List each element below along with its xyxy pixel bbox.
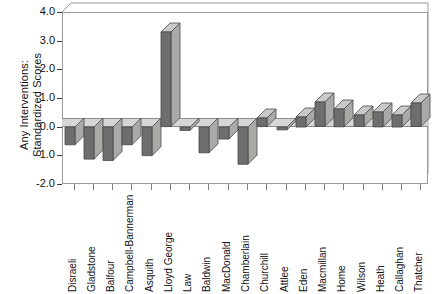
bar-3d-shape (199, 118, 220, 155)
bar-3d-shape (277, 118, 298, 132)
bar-3d-shape (334, 100, 355, 129)
bar-3d-shape (354, 106, 375, 128)
bar (180, 118, 190, 121)
x-axis-tick-mark (208, 184, 209, 190)
x-axis-category-label: Callaghan (395, 247, 405, 292)
bar (392, 106, 402, 118)
bar-3d-shape (257, 109, 278, 129)
x-axis-tick-mark (189, 184, 190, 190)
y-axis-tick-mark (57, 127, 62, 128)
y-axis-tick-mark (57, 98, 62, 99)
x-axis-category-labels: DisraeliGladstoneBalfourCampbell-Bannerm… (62, 190, 441, 294)
bar-3d-shape (142, 118, 163, 158)
x-axis-category-label: Macmillan (318, 247, 328, 292)
bar (103, 118, 113, 152)
x-axis-tick-mark (286, 184, 287, 190)
y-axis-tick-label: -1.0 (22, 148, 55, 160)
x-axis-tick-mark (324, 184, 325, 190)
bar-3d-shape (392, 106, 413, 129)
bar-chart: Any Interventions: Standardized Scores -… (0, 0, 441, 294)
x-axis-tick-mark (151, 184, 152, 190)
x-axis-tick-mark (112, 184, 113, 190)
y-axis-tick-mark (57, 184, 62, 185)
x-axis-category-label: Lloyd George (164, 232, 174, 292)
bar (84, 118, 94, 150)
bar (296, 108, 306, 118)
y-axis-tick-mark (57, 155, 62, 156)
bar (238, 118, 248, 155)
bar (219, 118, 229, 130)
x-axis-tick-mark (247, 184, 248, 190)
bar-3d-shape (161, 23, 182, 129)
x-axis-category-label: Chamberlain (241, 235, 251, 292)
bar-3d-shape (122, 118, 143, 147)
y-axis-tick-label: 4.0 (22, 5, 55, 17)
bar (334, 100, 344, 118)
x-axis-category-label: Baldwin (202, 257, 212, 292)
bar (411, 94, 421, 118)
x-axis-category-label: MacDonald (222, 241, 232, 292)
x-axis-tick-mark (420, 184, 421, 190)
x-axis-category-label: Eden (299, 269, 309, 292)
y-axis-tick-label: 2.0 (22, 62, 55, 74)
x-axis-tick-mark (228, 184, 229, 190)
bar (257, 109, 267, 118)
x-axis-tick-mark (305, 184, 306, 190)
bar (373, 103, 383, 118)
x-axis-tick-mark (170, 184, 171, 190)
bar-3d-shape (315, 93, 336, 128)
x-axis-category-label: Law (183, 274, 193, 292)
bar (122, 118, 132, 136)
bar (315, 93, 325, 117)
bar (277, 118, 287, 121)
x-axis-tick-mark (74, 184, 75, 190)
x-axis-category-label: Thatcher (414, 253, 424, 292)
bar-3d-shape (373, 103, 394, 129)
y-axis-tick-mark (57, 12, 62, 13)
x-axis-tick-mark (382, 184, 383, 190)
x-axis-category-label: Asquith (145, 259, 155, 292)
y-axis-tick-mark (57, 69, 62, 70)
x-axis-tick-mark (266, 184, 267, 190)
bar-3d-shape (180, 118, 201, 132)
bar-3d-shape (84, 118, 105, 161)
x-axis-category-label: Campbell-Bannerman (125, 195, 135, 292)
x-axis-category-label: Balfour (106, 260, 116, 292)
x-axis-tick-mark (401, 184, 402, 190)
bar (354, 106, 364, 117)
bar-3d-shape (219, 118, 240, 141)
x-axis-tick-mark (131, 184, 132, 190)
x-axis-category-label: Attlee (280, 266, 290, 292)
y-axis-tick-mark (57, 41, 62, 42)
bar (199, 118, 209, 144)
x-axis-category-label: Wilson (357, 262, 367, 292)
y-axis-tick-label: 0.0 (22, 120, 55, 132)
bar (65, 118, 75, 136)
bar-3d-shape (296, 108, 317, 129)
bar-3d-shape (411, 94, 432, 129)
bar (142, 118, 152, 147)
x-axis-tick-mark (93, 184, 94, 190)
x-axis-category-label: Disraeli (68, 259, 78, 292)
x-axis-category-label: Churchill (260, 253, 270, 292)
bar (161, 23, 171, 118)
y-axis-tick-label: 3.0 (22, 34, 55, 46)
y-axis-tick-label: 1.0 (22, 91, 55, 103)
bar-3d-shape (65, 118, 86, 147)
x-axis-tick-mark (363, 184, 364, 190)
x-axis-category-label: Heath (376, 265, 386, 292)
bar-3d-shape (103, 118, 124, 163)
x-axis-category-label: Home (337, 265, 347, 292)
plot-area: -2.0-1.00.01.02.03.04.0 (62, 12, 428, 184)
x-axis-tick-mark (343, 184, 344, 190)
x-axis-category-label: Gladstone (87, 246, 97, 292)
y-axis-tick-label: -2.0 (22, 177, 55, 189)
bar-3d-shape (238, 118, 259, 166)
